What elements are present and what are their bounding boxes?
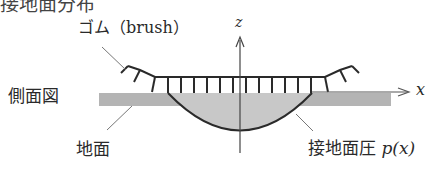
leader-ground bbox=[107, 106, 132, 130]
label-rubber: ゴム（brush） bbox=[78, 14, 189, 38]
label-z-axis: z bbox=[235, 14, 242, 30]
leader-rubber bbox=[102, 47, 126, 70]
label-x-axis: x bbox=[416, 80, 425, 99]
leader-pressure bbox=[296, 114, 313, 131]
label-pressure-func: p(x) bbox=[381, 138, 415, 158]
label-pressure: 接地面圧 p(x) bbox=[308, 134, 415, 159]
label-pressure-text: 接地面圧 bbox=[308, 138, 376, 158]
label-ground: 地面 bbox=[76, 135, 110, 160]
label-side-view: 側面図 bbox=[8, 82, 59, 107]
